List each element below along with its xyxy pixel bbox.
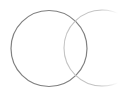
right-circle xyxy=(64,10,121,86)
venn-diagram xyxy=(0,0,121,98)
venn-svg xyxy=(0,0,121,98)
